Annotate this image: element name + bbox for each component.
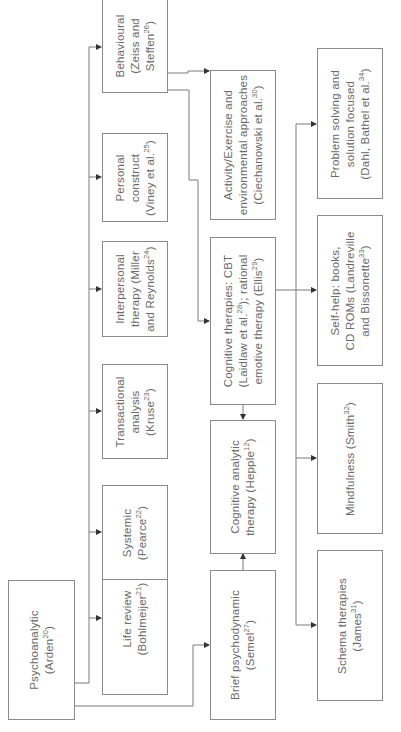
label-line: analysis bbox=[128, 376, 143, 447]
label-line: Cognitive therapies: CBT bbox=[221, 255, 236, 388]
label-line: Psychoanalytic bbox=[27, 610, 42, 690]
node-personal-construct: Personalconstruct(Viney et al.25) bbox=[102, 133, 168, 222]
node-activity-exercise: Activity/Exercise andenvironmental appro… bbox=[210, 70, 276, 220]
node-label: Life review(Bohlmeijer21) bbox=[120, 582, 150, 655]
node-label: Interpersonaltherapy (Millerand Reynolds… bbox=[113, 246, 158, 332]
label-line: CD ROMs (Landreville bbox=[343, 231, 358, 350]
node-label: Activity/Exercise andenvironmental appro… bbox=[221, 75, 266, 215]
label-line: and Bissonette33) bbox=[358, 231, 373, 350]
label-line: Interpersonal bbox=[113, 246, 128, 332]
node-systemic: Systemic(Pearce22) bbox=[102, 485, 168, 580]
node-schema-therapies: Schema therapies(James31) bbox=[317, 550, 383, 701]
label-line: solution focused bbox=[343, 68, 358, 179]
node-interpersonal-therapy: Interpersonaltherapy (Millerand Reynolds… bbox=[102, 241, 168, 337]
label-line: construct bbox=[128, 140, 143, 216]
node-brief-psychodynamic: Brief psychodynamic(Semel27) bbox=[210, 570, 276, 720]
label-line: (Semel27) bbox=[243, 590, 258, 700]
label-line: (Ciechanowski et al.30) bbox=[251, 75, 266, 215]
label-line: Behavioural bbox=[113, 14, 128, 77]
label-line: (Pearce22) bbox=[135, 505, 150, 559]
node-behavioural: Behavioural(Zeiss andSteffen26) bbox=[102, 0, 168, 93]
node-psychoanalytic: Psychoanalytic(Arden20) bbox=[8, 580, 75, 720]
label-line: (James31) bbox=[350, 578, 365, 674]
label-line: (Dahl, Bathel et al.34) bbox=[358, 68, 373, 179]
label-line: Schema therapies bbox=[335, 578, 350, 674]
label-line: (Bohlmeijer21) bbox=[135, 582, 150, 655]
node-mindfulness: Mindfulness (Smith32) bbox=[317, 383, 383, 534]
label-line: (Viney et al.25) bbox=[143, 140, 158, 216]
label-line: Self-help: books, bbox=[328, 231, 343, 350]
node-problem-solving: Problem solving andsolution focused(Dahl… bbox=[317, 48, 383, 199]
node-cognitive-analytic-therapy: Cognitive analytictherapy (Hepple12) bbox=[210, 420, 276, 554]
node-label: Psychoanalytic(Arden20) bbox=[27, 610, 57, 690]
node-label: Problem solving andsolution focused(Dahl… bbox=[328, 68, 373, 179]
node-label: Schema therapies(James31) bbox=[335, 578, 365, 674]
label-line: Systemic bbox=[120, 505, 135, 559]
label-line: (Kruse23) bbox=[143, 376, 158, 447]
node-label: Mindfulness (Smith32) bbox=[343, 401, 358, 515]
node-cognitive-therapies-cbt: Cognitive therapies: CBT(Laidlaw et al.2… bbox=[210, 237, 276, 405]
label-line: Transactional bbox=[113, 376, 128, 447]
node-label: Behavioural(Zeiss andSteffen26) bbox=[113, 14, 158, 77]
label-line: (Zeiss and bbox=[128, 14, 143, 77]
label-line: Cognitive analytic bbox=[228, 438, 243, 536]
label-line: environmental approaches bbox=[236, 75, 251, 215]
node-label: Cognitive therapies: CBT(Laidlaw et al.2… bbox=[221, 255, 266, 388]
label-line: Problem solving and bbox=[328, 68, 343, 179]
label-line: (Arden20) bbox=[42, 610, 57, 690]
node-label: Systemic(Pearce22) bbox=[120, 505, 150, 559]
node-transactional-analysis: Transactionalanalysis(Kruse23) bbox=[102, 364, 168, 459]
node-self-help: Self-help: books,CD ROMs (Landrevilleand… bbox=[317, 215, 383, 366]
label-line: (Laidlaw et al.28); rational bbox=[236, 255, 251, 388]
label-line: Steffen26) bbox=[143, 14, 158, 77]
label-line: Personal bbox=[113, 140, 128, 216]
label-line: therapy (Miller bbox=[128, 246, 143, 332]
node-label: Transactionalanalysis(Kruse23) bbox=[113, 376, 158, 447]
label-line: emotive therapy (Ellis29) bbox=[251, 255, 266, 388]
label-line: Brief psychodynamic bbox=[228, 590, 243, 700]
node-label: Cognitive analytictherapy (Hepple12) bbox=[228, 438, 258, 536]
label-line: Activity/Exercise and bbox=[221, 75, 236, 215]
label-line: and Reynolds24) bbox=[143, 246, 158, 332]
label-line: Mindfulness (Smith32) bbox=[343, 401, 358, 515]
label-line: Life review bbox=[120, 582, 135, 655]
node-label: Personalconstruct(Viney et al.25) bbox=[113, 140, 158, 216]
node-label: Self-help: books,CD ROMs (Landrevilleand… bbox=[328, 231, 373, 350]
label-line: therapy (Hepple12) bbox=[243, 438, 258, 536]
node-label: Brief psychodynamic(Semel27) bbox=[228, 590, 258, 700]
